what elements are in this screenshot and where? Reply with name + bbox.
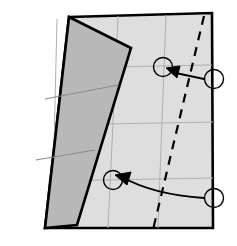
- origami-fold-diagram: [0, 0, 237, 246]
- origami-diagram-root: [0, 0, 237, 246]
